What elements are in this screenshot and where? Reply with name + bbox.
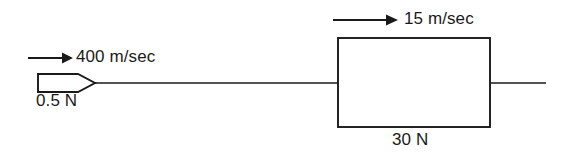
bullet-velocity-label: 400 m/sec [76,48,155,65]
block-velocity-arrow-icon [333,15,398,26]
block-velocity-label: 15 m/sec [404,10,474,27]
physics-diagram: 400 m/sec 0.5 N 15 m/sec 30 N [0,0,565,159]
block-force-label: 30 N [392,131,428,148]
bullet-force-label: 0.5 N [36,92,77,109]
bullet-shape [38,74,95,92]
block-shape [338,38,490,127]
diagram-canvas [0,0,565,159]
bullet-velocity-arrow-icon [28,53,73,64]
